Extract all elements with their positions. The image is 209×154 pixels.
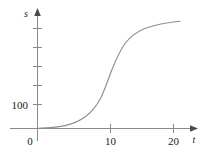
y-axis-label: s — [24, 8, 28, 19]
sigmoid-curve — [39, 21, 181, 128]
x-tick-label-20: 20 — [168, 135, 180, 147]
y-tick-label-100: 100 — [12, 99, 29, 111]
plot-canvas: s t 0 100 10 20 — [0, 0, 209, 154]
origin-label: 0 — [27, 135, 33, 147]
x-axis-arrow-icon — [190, 125, 198, 132]
y-axis-arrow-icon — [34, 8, 41, 16]
x-axis-label: t — [193, 134, 196, 145]
graph-figure: s t 0 100 10 20 — [0, 0, 209, 154]
x-tick-label-10: 10 — [105, 135, 117, 147]
